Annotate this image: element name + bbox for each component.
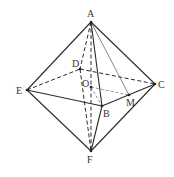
label-B: B <box>103 108 110 119</box>
edge-OM <box>91 87 129 95</box>
point-O <box>90 86 93 89</box>
point-F <box>90 150 93 153</box>
edge-BF <box>91 106 102 151</box>
octahedron-diagram: A B C D E F O M <box>0 0 174 177</box>
edge-EF <box>27 90 91 151</box>
point-A <box>90 21 93 24</box>
label-C: C <box>158 79 165 90</box>
label-F: F <box>87 154 93 165</box>
label-M: M <box>126 97 135 108</box>
edge-AD <box>80 22 91 69</box>
point-E <box>26 89 29 92</box>
edge-ED <box>27 69 80 90</box>
edge-AC <box>91 22 155 84</box>
point-B <box>101 105 104 108</box>
point-C <box>154 83 157 86</box>
label-E: E <box>16 85 22 96</box>
label-O: O <box>82 78 89 89</box>
label-D: D <box>72 58 79 69</box>
point-M <box>128 94 131 97</box>
edge-EB <box>27 90 102 106</box>
edge-AM <box>91 22 129 95</box>
edge-AB <box>91 22 102 106</box>
label-A: A <box>87 8 95 19</box>
